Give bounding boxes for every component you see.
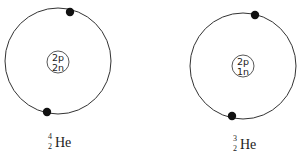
electron [43, 108, 51, 116]
atom-diagrams: 2p 2n 2p 1n [0, 0, 300, 153]
electron [228, 112, 236, 120]
neutron-count: 2n [52, 62, 64, 73]
atom-helium-4: 2p 2n [5, 8, 111, 116]
element-symbol: He [240, 137, 256, 152]
electron [251, 11, 259, 19]
atomic-number: 2 [48, 143, 52, 151]
atomic-number: 2 [233, 145, 237, 153]
electron [66, 8, 74, 16]
isotope-label-helium-3: 3 2 He [233, 138, 256, 152]
mass-number: 4 [48, 133, 52, 141]
element-symbol: He [55, 135, 71, 150]
neutron-count: 1n [237, 66, 249, 77]
mass-number: 3 [233, 135, 237, 143]
atom-helium-3: 2p 1n [190, 11, 296, 120]
isotope-label-helium-4: 4 2 He [48, 136, 71, 150]
